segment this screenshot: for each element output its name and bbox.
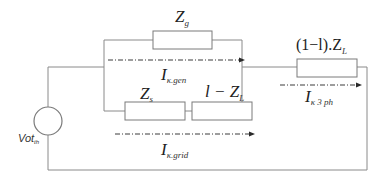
wire-branch-left xyxy=(104,40,125,111)
impedance-zg-box xyxy=(153,31,212,49)
impedance-line-box xyxy=(297,59,357,77)
current-arrow-gen xyxy=(108,58,245,63)
voltage-source-icon xyxy=(34,107,62,135)
circuit-diagram: Zg Zs l − ZL (1−l).ZL Iκ.gen Iκ.grid Iκ … xyxy=(0,0,386,181)
current-arrow-grid xyxy=(115,132,255,137)
label-line-impedance: (1−l).ZL xyxy=(296,36,347,56)
current-arrow-3ph xyxy=(280,83,362,88)
label-i-gen: Iκ.gen xyxy=(160,65,187,85)
impedance-l-zl-box xyxy=(192,102,252,120)
label-i-grid: Iκ.grid xyxy=(160,140,189,160)
label-i-3ph: Iκ 3 ph xyxy=(304,87,333,107)
wire-source-top xyxy=(48,67,104,107)
label-zg: Zg xyxy=(175,7,189,28)
label-l-zl: l − ZL xyxy=(205,82,244,103)
label-source: Votth xyxy=(18,132,40,145)
impedance-zs-box xyxy=(125,102,185,120)
label-zs: Zs xyxy=(140,84,153,104)
